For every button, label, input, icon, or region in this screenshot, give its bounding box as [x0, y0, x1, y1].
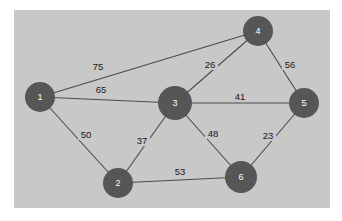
graph-node-4[interactable]: 4	[243, 16, 273, 46]
graph-edge-weight-1-3: 65	[96, 84, 107, 95]
graph-node-label-1: 1	[37, 92, 42, 102]
graph-edge-weight-3-4: 26	[205, 59, 216, 70]
graph-node-1[interactable]: 1	[25, 82, 55, 112]
graph-edge-weight-5-6: 23	[263, 130, 274, 141]
graph-edge-weight-1-4: 75	[93, 61, 104, 72]
graph-edge-weight-4-5: 56	[285, 59, 296, 70]
graph-node-3[interactable]: 3	[158, 86, 192, 120]
graph-node-2[interactable]: 2	[103, 168, 133, 198]
graph-node-6[interactable]: 6	[225, 161, 257, 193]
graph-edge-1-3	[40, 97, 175, 103]
graph-svg: 75655037532641485623 123456	[0, 0, 342, 221]
graph-node-label-6: 6	[238, 172, 243, 182]
graph-node-label-5: 5	[301, 98, 306, 108]
graph-node-label-4: 4	[255, 26, 260, 36]
graph-edge-weight-3-5: 41	[235, 91, 246, 102]
graph-edge-2-6	[118, 177, 241, 183]
graph-node-label-2: 2	[115, 178, 120, 188]
graph-edge-weight-2-3: 37	[137, 135, 148, 146]
graph-edge-1-4	[40, 31, 258, 97]
graph-node-5[interactable]: 5	[289, 88, 319, 118]
graph-figure: 75655037532641485623 123456	[0, 0, 342, 221]
graph-edge-weight-1-2: 50	[81, 129, 92, 140]
graph-node-label-3: 3	[172, 98, 177, 108]
graph-edge-weight-3-6: 48	[208, 128, 219, 139]
graph-edge-weight-2-6: 53	[175, 166, 186, 177]
